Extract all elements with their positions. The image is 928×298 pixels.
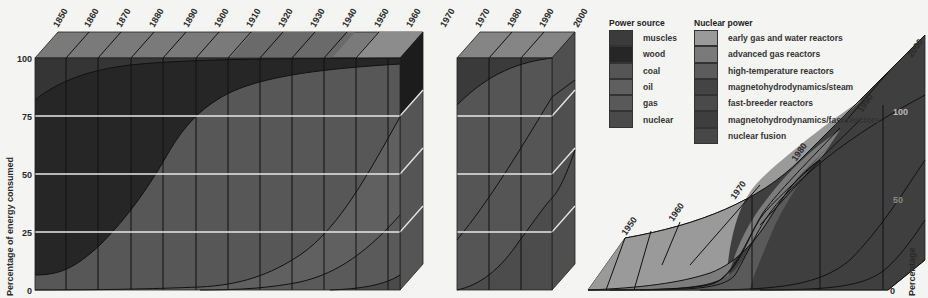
svg-text:1860: 1860 (82, 7, 101, 29)
swatch-mhd-fast (694, 111, 718, 127)
legend-item: coal (609, 63, 677, 79)
swatch-nuclear (609, 111, 633, 127)
svg-text:2000: 2000 (571, 7, 590, 29)
legend-item: advanced gas reactors (694, 46, 880, 62)
legend-power-source: Power source muscles wood coal oil gas n… (609, 18, 677, 128)
svg-text:1900: 1900 (212, 7, 231, 29)
svg-text:100: 100 (17, 54, 32, 64)
legend-nuclear-power: Nuclear power early gas and water reacto… (694, 18, 880, 144)
svg-text:1940: 1940 (340, 7, 359, 29)
svg-text:0: 0 (27, 286, 32, 296)
svg-text:100: 100 (893, 107, 908, 117)
svg-text:1970: 1970 (438, 7, 457, 29)
svg-text:1890: 1890 (181, 7, 200, 29)
legend-item: gas (609, 95, 677, 111)
swatch-oil (609, 79, 633, 95)
x-axis-main: 1850 1860 1870 1880 1890 1900 1910 1920 … (51, 7, 457, 29)
svg-text:Percentage: Percentage (907, 247, 917, 296)
svg-text:1960: 1960 (666, 201, 686, 223)
swatch-fusion (694, 128, 718, 144)
legend-item: magnetohydrodynamics/steam (694, 79, 880, 95)
svg-text:1870: 1870 (114, 7, 133, 29)
forecast-block (457, 32, 575, 290)
svg-text:50: 50 (22, 170, 32, 180)
swatch-advanced-gas (694, 46, 718, 62)
legend-item: nuclear (609, 111, 677, 127)
legend-item: fast-breeder reactors (694, 95, 880, 111)
svg-text:0: 0 (890, 286, 895, 296)
legend-item: magnetohydrodynamics/fast reactors (694, 111, 880, 127)
svg-text:1990: 1990 (537, 7, 556, 29)
swatch-muscles (609, 30, 633, 46)
swatch-gas (609, 95, 633, 111)
svg-text:1950: 1950 (619, 215, 639, 237)
svg-text:75: 75 (22, 112, 32, 122)
svg-text:1970: 1970 (473, 7, 492, 29)
swatch-wood (609, 46, 633, 62)
y-axis-title: Percentage of energy consumed (5, 157, 15, 296)
swatch-early-gas-water (694, 30, 718, 46)
legend-item: wood (609, 46, 677, 62)
legend-item: muscles (609, 30, 677, 46)
svg-text:1920: 1920 (276, 7, 295, 29)
svg-text:1960: 1960 (404, 7, 423, 29)
svg-text:1980: 1980 (505, 7, 524, 29)
x-axis-forecast: 1970 1980 1990 2000 (473, 7, 590, 29)
svg-text:1930: 1930 (308, 7, 327, 29)
swatch-fast-breeder (694, 95, 718, 111)
legend-item: high-temperature reactors (694, 63, 880, 79)
svg-text:1850: 1850 (51, 7, 70, 29)
legend-power-title: Power source (609, 18, 677, 28)
main-block (35, 32, 423, 290)
legend-item: early gas and water reactors (694, 30, 880, 46)
legend-item: oil (609, 79, 677, 95)
svg-text:1970: 1970 (728, 179, 748, 201)
svg-text:25: 25 (22, 228, 32, 238)
svg-text:1910: 1910 (244, 7, 263, 29)
svg-text:50: 50 (893, 195, 903, 205)
legend-nuclear-title: Nuclear power (694, 18, 880, 28)
swatch-coal (609, 63, 633, 79)
svg-text:1950: 1950 (372, 7, 391, 29)
legend-item: nuclear fusion (694, 128, 880, 144)
swatch-high-temp (694, 63, 718, 79)
svg-text:1880: 1880 (147, 7, 166, 29)
y-axis: 100 75 50 25 0 Percentage of energy cons… (5, 54, 32, 296)
swatch-mhd-steam (694, 79, 718, 95)
